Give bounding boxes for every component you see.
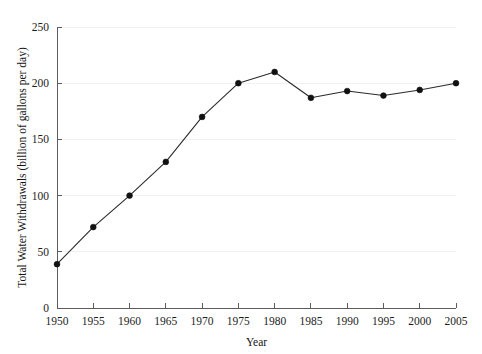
data-point-marker <box>235 80 241 86</box>
axes-group <box>57 27 456 308</box>
chart-plot-area: 050100150200250 195019551960196519701975… <box>0 0 482 354</box>
x-tick-label: 1965 <box>154 315 177 327</box>
y-tick-label: 0 <box>43 302 49 314</box>
data-point-marker <box>308 95 314 101</box>
x-tick-label: 1975 <box>227 315 250 327</box>
data-point-marker <box>127 193 133 199</box>
x-tick-label: 1995 <box>372 315 395 327</box>
x-tick-label: 1960 <box>118 315 141 327</box>
data-point-marker <box>90 224 96 230</box>
y-axis-title: Total Water Withdrawals (billion of gall… <box>16 47 29 288</box>
y-tick-label: 200 <box>32 77 50 89</box>
data-point-markers-group <box>54 69 459 267</box>
x-axis-title: Year <box>246 336 267 348</box>
gridlines-group <box>57 27 456 252</box>
data-point-marker <box>381 93 387 99</box>
x-tick-label: 1980 <box>263 315 286 327</box>
x-tick-label: 2000 <box>408 315 431 327</box>
data-point-marker <box>453 80 459 86</box>
series-line-total-water-withdrawals <box>57 72 456 264</box>
y-tick-label: 250 <box>32 21 50 33</box>
y-tick-label: 100 <box>32 190 50 202</box>
x-tick-label: 1985 <box>299 315 322 327</box>
data-point-marker <box>272 69 278 75</box>
data-point-marker <box>344 88 350 94</box>
x-tick-label: 1950 <box>46 315 69 327</box>
data-series-group <box>57 72 456 264</box>
x-axis-tick-labels: 1950195519601965197019751980198519901995… <box>46 315 468 327</box>
y-axis-tick-labels: 050100150200250 <box>32 21 50 314</box>
x-tick-label: 1955 <box>82 315 105 327</box>
x-tick-label: 1970 <box>191 315 214 327</box>
tick-marks-group <box>57 27 456 308</box>
data-point-marker <box>417 87 423 93</box>
x-tick-label: 1990 <box>336 315 359 327</box>
line-chart: 050100150200250 195019551960196519701975… <box>0 0 482 354</box>
y-tick-label: 150 <box>32 133 50 145</box>
data-point-marker <box>163 159 169 165</box>
data-point-marker <box>199 114 205 120</box>
x-tick-label: 2005 <box>445 315 468 327</box>
data-point-marker <box>54 261 60 267</box>
y-tick-label: 50 <box>38 246 50 258</box>
